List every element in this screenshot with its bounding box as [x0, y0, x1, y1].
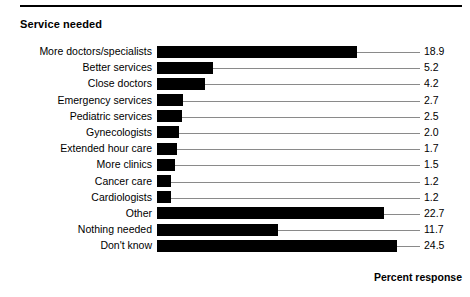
bar	[157, 240, 397, 252]
bar-row: Pediatric services 2.5	[0, 109, 470, 125]
leader-line	[157, 198, 420, 199]
value-label: 18.9	[424, 45, 464, 58]
bar	[157, 110, 182, 122]
category-label: Nothing needed	[78, 223, 152, 236]
value-label: 2.7	[424, 94, 464, 107]
bar-row: Gynecologists 2.0	[0, 125, 470, 141]
leader-line	[157, 165, 420, 166]
category-label: More doctors/specialists	[39, 45, 152, 58]
value-label: 5.2	[424, 61, 464, 74]
bar-row: Emergency services 2.7	[0, 93, 470, 109]
leader-line	[157, 182, 420, 183]
category-label: Other	[126, 207, 152, 220]
bar-row: Don't know 24.5	[0, 238, 470, 254]
bar-row: More clinics 1.5	[0, 157, 470, 173]
bar	[157, 94, 183, 106]
leader-line	[157, 133, 420, 134]
category-label: More clinics	[97, 158, 152, 171]
chart-title: Service needed	[20, 18, 102, 30]
value-label: 2.0	[424, 126, 464, 139]
bar-row: Cancer care 1.2	[0, 174, 470, 190]
value-label: 11.7	[424, 223, 464, 236]
bar	[157, 46, 357, 58]
bar-row: Extended hour care 1.7	[0, 141, 470, 157]
bar-row: Cardiologists 1.2	[0, 190, 470, 206]
bar	[157, 175, 171, 187]
category-label: Pediatric services	[70, 110, 152, 123]
category-label: Better services	[83, 61, 152, 74]
value-label: 1.5	[424, 158, 464, 171]
category-label: Emergency services	[57, 94, 152, 107]
top-rule-divider	[20, 5, 462, 7]
bar	[157, 78, 205, 90]
bar-row: Other 22.7	[0, 206, 470, 222]
category-label: Extended hour care	[60, 142, 152, 155]
bar-row: More doctors/specialists 18.9	[0, 44, 470, 60]
bar	[157, 143, 177, 155]
bar	[157, 207, 384, 219]
bar-rows-container: More doctors/specialists 18.9 Better ser…	[0, 44, 470, 254]
leader-line	[157, 117, 420, 118]
bar	[157, 159, 175, 171]
category-label: Cardiologists	[91, 191, 152, 204]
bar-row: Close doctors 4.2	[0, 76, 470, 92]
leader-line	[157, 101, 420, 102]
bar-row: Better services 5.2	[0, 60, 470, 76]
value-label: 2.5	[424, 110, 464, 123]
bar-row: Nothing needed 11.7	[0, 222, 470, 238]
bar	[157, 62, 213, 74]
category-label: Don't know	[100, 239, 152, 252]
chart-figure: Service needed More doctors/specialists …	[0, 0, 470, 297]
category-label: Gynecologists	[86, 126, 152, 139]
x-axis-caption: Percent response	[374, 271, 462, 283]
category-label: Cancer care	[95, 175, 152, 188]
category-label: Close doctors	[88, 77, 152, 90]
value-label: 22.7	[424, 207, 464, 220]
value-label: 4.2	[424, 77, 464, 90]
value-label: 1.2	[424, 191, 464, 204]
bar	[157, 224, 278, 236]
bar	[157, 126, 179, 138]
leader-line	[157, 149, 420, 150]
value-label: 1.7	[424, 142, 464, 155]
bar	[157, 191, 171, 203]
value-label: 1.2	[424, 175, 464, 188]
value-label: 24.5	[424, 239, 464, 252]
